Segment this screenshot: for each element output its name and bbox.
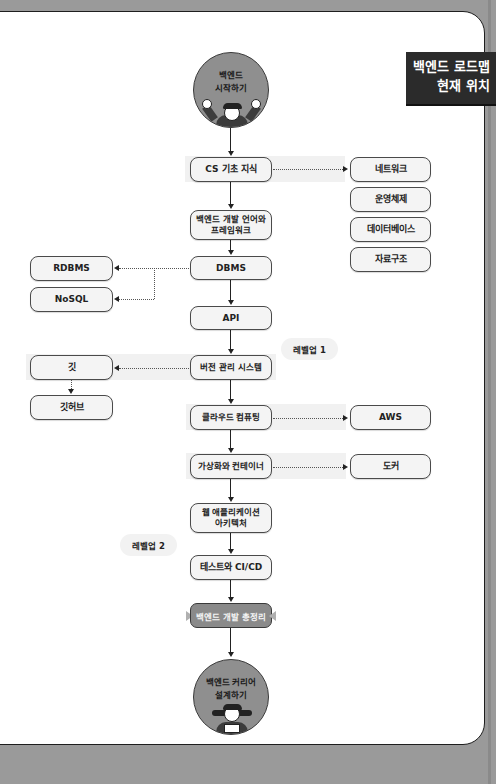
connector (230, 479, 231, 498)
step-version-control[interactable]: 버전 관리 시스템 (190, 355, 272, 380)
tool-label: 깃허브 (60, 401, 84, 413)
step-label: 테스트와 CI/CD (200, 561, 262, 573)
tool-github[interactable]: 깃허브 (30, 395, 113, 420)
arrow-down-icon (228, 597, 234, 602)
arrow-down-icon (228, 399, 234, 404)
step-label: 웹 애플리케이션 아키텍처 (202, 507, 261, 530)
arrow-down-icon (228, 497, 234, 502)
tag-subtitle: 현재 위치 (406, 77, 490, 96)
arrow-down-icon (68, 389, 74, 394)
dotted-connector (71, 380, 72, 389)
arrow-down-icon (228, 652, 234, 657)
connector (230, 128, 231, 152)
dotted-connector (119, 299, 154, 300)
arrow-down-icon (228, 300, 234, 305)
topic-operating-system[interactable]: 운영체제 (350, 187, 431, 212)
tag-title: 백엔드 로드맵 (406, 58, 490, 77)
connector (230, 430, 231, 449)
step-virtualization-container[interactable]: 가상화와 컨테이너 (190, 454, 272, 479)
end-label: 백엔드 커리어 설계하기 (194, 676, 268, 702)
arrow-left-icon (114, 265, 119, 271)
connector (230, 182, 231, 205)
tool-label: AWS (379, 411, 402, 423)
step-language-framework[interactable]: 백엔드 개발 언어와 프레임워크 (190, 210, 272, 240)
topic-data-structure[interactable]: 자료구조 (350, 247, 431, 272)
topic-label: 네트워크 (375, 163, 407, 175)
arrow-right-icon (343, 415, 348, 421)
connector (230, 628, 231, 653)
arrow-down-icon (228, 151, 234, 156)
tool-aws[interactable]: AWS (350, 405, 431, 430)
tool-label: 도커 (383, 460, 399, 472)
connector (230, 280, 231, 301)
topic-database[interactable]: 데이터베이스 (350, 217, 431, 242)
step-label: 백엔드 개발 언어와 프레임워크 (196, 214, 266, 237)
dbms-rdbms[interactable]: RDBMS (30, 256, 113, 281)
arrow-down-icon (228, 250, 234, 255)
arrow-down-icon (228, 349, 234, 354)
dbms-label: NoSQL (55, 293, 89, 305)
arrow-right-icon (343, 166, 348, 172)
step-cloud-computing[interactable]: 클라우드 컴퓨팅 (190, 405, 272, 430)
step-label: 버전 관리 시스템 (200, 362, 262, 373)
step-dbms[interactable]: DBMS (190, 256, 272, 280)
summary-label: 백엔드 개발 총정리 (196, 610, 266, 622)
arrow-left-icon (114, 296, 119, 302)
dotted-connector (154, 268, 155, 299)
dotted-connector (273, 467, 343, 468)
tool-label: 깃 (68, 361, 76, 373)
connector (230, 380, 231, 400)
dotted-connector (273, 418, 343, 419)
roadmap-position-tag: 백엔드 로드맵 현재 위치 (406, 52, 496, 104)
step-label: DBMS (216, 262, 246, 274)
page-edge (488, 0, 491, 784)
step-backend-summary[interactable]: 백엔드 개발 총정리 (190, 603, 272, 628)
topic-label: 데이터베이스 (367, 223, 415, 235)
summary-notch-right (269, 611, 276, 621)
step-label: 클라우드 컴퓨팅 (202, 412, 261, 423)
dotted-connector (119, 368, 189, 369)
connector (230, 330, 231, 350)
start-label: 백엔드 시작하기 (194, 69, 268, 95)
arrow-down-icon (228, 448, 234, 453)
dotted-connector (273, 169, 343, 170)
tool-docker[interactable]: 도커 (350, 454, 431, 479)
levelup-1-label: 레벨업 1 (281, 338, 338, 360)
arrow-down-icon (228, 549, 234, 554)
step-web-architecture[interactable]: 웹 애플리케이션 아키텍처 (190, 503, 272, 533)
dbms-nosql[interactable]: NoSQL (30, 287, 113, 312)
dbms-label: RDBMS (53, 262, 90, 274)
topic-label: 자료구조 (375, 253, 407, 265)
connector (230, 580, 231, 598)
tool-git[interactable]: 깃 (30, 355, 113, 380)
end-node[interactable]: 백엔드 커리어 설계하기 (193, 659, 269, 735)
arrow-right-icon (343, 464, 348, 470)
topic-network[interactable]: 네트워크 (350, 157, 431, 182)
step-test-cicd[interactable]: 테스트와 CI/CD (190, 555, 272, 580)
arrow-down-icon (228, 204, 234, 209)
topic-label: 운영체제 (375, 193, 407, 205)
levelup-2-label: 레벨업 2 (120, 534, 177, 556)
arrow-left-icon (114, 365, 119, 371)
step-api[interactable]: API (190, 306, 272, 330)
connector (230, 533, 231, 550)
step-label: 가상화와 컨테이너 (198, 461, 265, 472)
step-cs-basics[interactable]: CS 기초 지식 (190, 157, 272, 182)
start-node[interactable]: 백엔드 시작하기 (193, 52, 269, 128)
step-label: CS 기초 지식 (205, 163, 257, 175)
step-label: API (223, 312, 240, 324)
